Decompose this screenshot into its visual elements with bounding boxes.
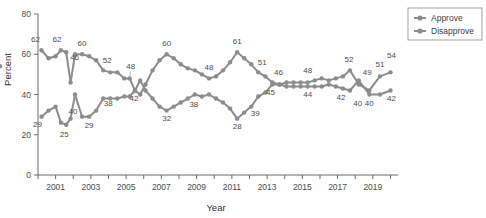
x-tick-label: 2015: [293, 182, 312, 192]
data-point-disapprove: [367, 92, 371, 96]
data-point-approve: [214, 74, 218, 78]
data-point-approve: [284, 80, 288, 84]
data-point-disapprove: [291, 84, 295, 88]
data-label-approve: 62: [52, 35, 61, 44]
data-point-approve: [64, 50, 68, 54]
data-point-approve: [249, 62, 253, 66]
data-point-approve: [263, 74, 267, 78]
x-tick-label: 2001: [46, 182, 65, 192]
data-point-approve: [378, 74, 382, 78]
data-point-approve: [179, 62, 183, 66]
data-point-approve: [341, 74, 345, 78]
data-point-approve: [164, 52, 168, 56]
data-point-disapprove: [277, 82, 281, 86]
data-point-disapprove: [305, 84, 309, 88]
data-point-approve: [242, 56, 246, 60]
data-label-approve: 52: [344, 55, 353, 64]
data-point-disapprove: [122, 94, 126, 98]
data-point-disapprove: [284, 84, 288, 88]
data-point-disapprove: [320, 84, 324, 88]
data-label-disapprove: 32: [162, 114, 171, 123]
data-point-disapprove: [138, 78, 142, 82]
data-point-approve: [200, 72, 204, 76]
data-point-disapprove: [334, 84, 338, 88]
approval-line-chart: 020406080 200120032005200720092011201320…: [0, 0, 486, 218]
data-label-disapprove: 29: [33, 120, 42, 129]
data-point-approve: [334, 76, 338, 80]
data-point-disapprove: [87, 114, 91, 118]
data-label-approve: 60: [162, 39, 171, 48]
data-label-disapprove: 40: [353, 99, 362, 108]
data-point-approve: [221, 68, 225, 72]
data-point-disapprove: [200, 94, 204, 98]
data-point-disapprove: [133, 88, 137, 92]
data-label-approve: 49: [363, 68, 372, 77]
data-point-disapprove: [270, 82, 274, 86]
legend-swatch-marker-disapprove: [417, 28, 422, 33]
data-point-approve: [138, 92, 142, 96]
data-point-disapprove: [59, 120, 63, 124]
x-tick-label: 2013: [258, 182, 277, 192]
chart-legend[interactable]: ApproveDisapprove: [408, 8, 482, 40]
data-point-approve: [59, 48, 63, 52]
data-point-approve: [122, 76, 126, 80]
data-label-disapprove: 39: [251, 109, 260, 118]
y-tick-label: 80: [22, 9, 32, 19]
data-point-disapprove: [193, 92, 197, 96]
data-label-disapprove: 42: [129, 94, 138, 103]
data-point-approve: [101, 68, 105, 72]
data-point-disapprove: [64, 122, 68, 126]
data-label-approve: 46: [274, 68, 283, 77]
data-label-approve: 52: [103, 56, 112, 65]
data-label-disapprove: 44: [303, 90, 312, 99]
data-point-disapprove: [68, 116, 72, 120]
data-point-disapprove: [327, 82, 331, 86]
x-tick-label: 2017: [328, 182, 347, 192]
y-tick-label: 20: [22, 130, 32, 140]
data-point-disapprove: [312, 84, 316, 88]
data-point-approve: [291, 80, 295, 84]
data-label-disapprove: 40: [365, 99, 374, 108]
y-axis-title: Percent: [2, 53, 13, 86]
data-point-disapprove: [235, 116, 239, 120]
data-point-approve: [108, 70, 112, 74]
x-tick-label: 2009: [187, 182, 206, 192]
data-point-approve: [53, 54, 57, 58]
data-point-disapprove: [228, 106, 232, 110]
data-point-disapprove: [388, 88, 392, 92]
x-tick-label: 2011: [223, 182, 242, 192]
data-label-disapprove: 28: [233, 122, 242, 131]
y-tick-label: 60: [22, 49, 32, 59]
data-point-disapprove: [39, 114, 43, 118]
data-point-disapprove: [221, 100, 225, 104]
legend-label-disapprove[interactable]: Disapprove: [431, 26, 474, 36]
legend-swatch-marker-approve: [417, 15, 422, 20]
data-point-disapprove: [378, 92, 382, 96]
data-point-approve: [235, 50, 239, 54]
legend-label-approve[interactable]: Approve: [431, 13, 463, 23]
data-label-disapprove: 38: [189, 100, 198, 109]
data-label-approve: 46: [70, 53, 79, 62]
data-point-disapprove: [256, 94, 260, 98]
data-point-approve: [348, 68, 352, 72]
data-point-approve: [327, 78, 331, 82]
data-label-disapprove: 40: [69, 107, 78, 116]
x-axis: 2001200320052007200920112013201520172019: [38, 175, 398, 192]
data-label-approve: 61: [233, 37, 242, 46]
data-label-disapprove: 38: [104, 99, 113, 108]
data-point-approve: [256, 70, 260, 74]
data-point-approve: [312, 78, 316, 82]
data-point-approve: [150, 68, 154, 72]
data-label-disapprove: 42: [387, 94, 396, 103]
data-point-disapprove: [46, 108, 50, 112]
data-point-approve: [172, 56, 176, 60]
data-point-approve: [228, 60, 232, 64]
data-point-disapprove: [172, 104, 176, 108]
data-point-approve: [87, 54, 91, 58]
y-tick-label: 0: [26, 170, 31, 180]
data-point-disapprove: [80, 114, 84, 118]
data-label-approve: 48: [303, 66, 312, 75]
data-point-disapprove: [214, 96, 218, 100]
data-point-disapprove: [298, 84, 302, 88]
data-label-approve: 54: [387, 51, 396, 60]
